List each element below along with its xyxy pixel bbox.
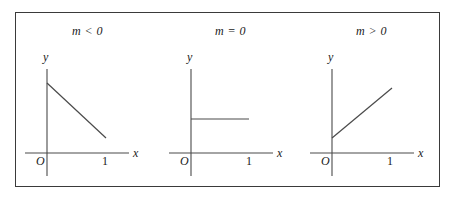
origin-label: O [180,154,189,169]
panel-negative-slope: m < 0 y x O 1 [16,13,159,188]
panel-positive-slope: m > 0 y x O 1 [302,13,441,188]
y-axis-label: y [187,50,192,65]
x-tick-label-one: 1 [102,154,108,169]
y-axis-label: y [328,50,333,65]
figure-container: m < 0 y x O 1 m = 0 y [0,0,458,200]
y-axis-label: y [43,50,48,65]
x-axis-label: x [277,146,282,161]
x-tick-label-one: 1 [387,154,393,169]
panel-zero-slope: m = 0 y x O 1 [159,13,302,188]
figure-border-frame: m < 0 y x O 1 m = 0 y [15,12,440,187]
data-line-negative-slope [47,83,106,138]
origin-label: O [36,154,45,169]
x-tick-label-one: 1 [246,154,252,169]
x-axis-label: x [418,146,423,161]
x-axis-label: x [133,146,138,161]
origin-label: O [321,154,330,169]
data-line-positive-slope [332,88,392,138]
